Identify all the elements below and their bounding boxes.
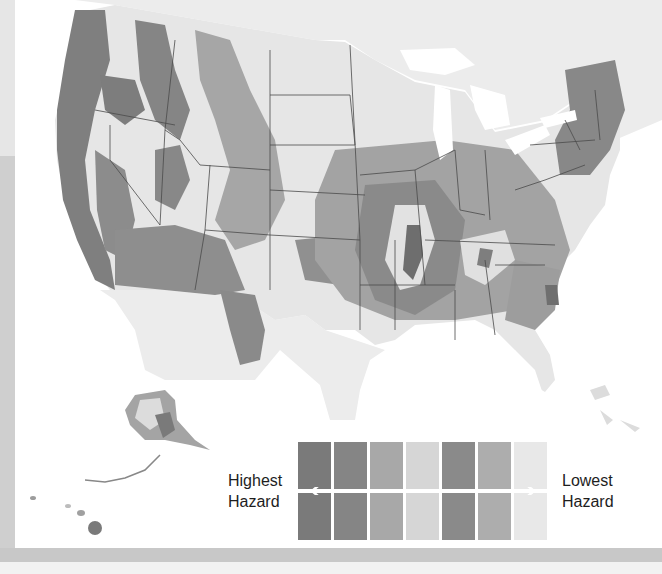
legend-swatch-top (478, 442, 511, 489)
legend-swatch-bottom (406, 493, 439, 540)
legend-label-line: Lowest (562, 470, 614, 491)
bahamas-island (600, 410, 613, 425)
hawaii-kauai (30, 496, 36, 500)
legend-swatch-top (298, 442, 331, 489)
aleutian-islands (85, 455, 160, 482)
hawaii-oahu (65, 504, 71, 508)
legend-label-lowest-hazard: Lowest Hazard (562, 470, 614, 512)
bahamas-island (590, 385, 610, 400)
bottom-strip (0, 562, 662, 574)
legend-label-line: Hazard (228, 491, 282, 512)
alaska (85, 390, 210, 482)
legend-double-arrow (310, 487, 536, 495)
legend-swatch-top (514, 442, 547, 489)
legend-swatch-bottom (298, 493, 331, 540)
hawaii-maui (77, 510, 85, 516)
legend-swatch-bottom (442, 493, 475, 540)
gulf-of-mexico (360, 350, 545, 440)
legend-swatch-bottom (370, 493, 403, 540)
legend-swatch-top (370, 442, 403, 489)
legend-swatch-top (334, 442, 367, 489)
bottom-divider-bar (0, 548, 662, 562)
legend-label-line: Highest (228, 470, 282, 491)
hawaii (30, 496, 102, 535)
legend-label-line: Hazard (562, 491, 614, 512)
legend-swatch-bottom (334, 493, 367, 540)
hazard-zone-charleston (545, 285, 559, 305)
left-margin-strip-lower (0, 156, 15, 550)
legend-swatch-top (442, 442, 475, 489)
bahamas (590, 385, 640, 432)
legend-label-highest-hazard: Highest Hazard (228, 470, 282, 512)
legend-swatch-bottom (478, 493, 511, 540)
legend-swatch-bottom (514, 493, 547, 540)
legend-swatch-top (406, 442, 439, 489)
hazard-legend (298, 442, 548, 540)
hawaii-big-island (88, 521, 102, 535)
bahamas-island (620, 420, 640, 432)
